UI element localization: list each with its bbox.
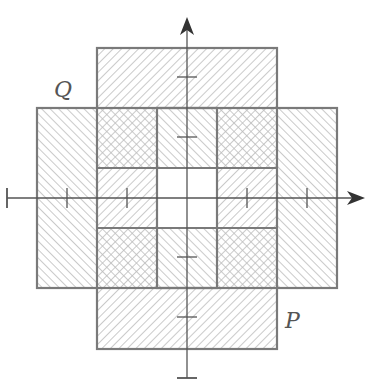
label-p: P	[284, 308, 301, 333]
label-q: Q	[54, 77, 72, 102]
set-diagram: Q P	[0, 0, 370, 385]
